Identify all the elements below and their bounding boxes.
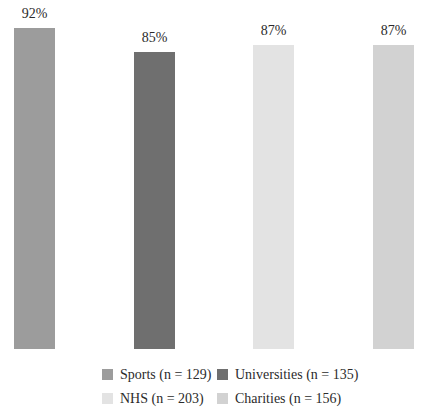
bar-group-charities: 87% [373, 23, 414, 349]
legend-item-sports: Sports (n = 129) [102, 367, 217, 382]
legend-swatch-icon [217, 369, 228, 380]
bar-value-label-universities: 85% [142, 30, 168, 46]
bar-charities [373, 45, 414, 349]
legend-swatch-icon [217, 393, 228, 404]
legend: Sports (n = 129)Universities (n = 135)NH… [102, 367, 358, 406]
bar-sports [14, 28, 55, 349]
bar-universities [134, 52, 175, 349]
legend-swatch-icon [102, 369, 113, 380]
bar-value-label-charities: 87% [381, 23, 407, 39]
legend-label-nhs: NHS (n = 203) [120, 391, 204, 406]
bar-group-nhs: 87% [253, 23, 294, 349]
legend-swatch-icon [102, 393, 113, 404]
legend-label-sports: Sports (n = 129) [120, 367, 212, 382]
bar-nhs [253, 45, 294, 349]
bar-chart-figure: 92%85%87%87% Sports (n = 129)Universitie… [0, 0, 424, 420]
bar-value-label-nhs: 87% [261, 23, 287, 39]
legend-item-charities: Charities (n = 156) [217, 391, 358, 406]
plot-area: 92%85%87%87% [0, 0, 424, 349]
legend-label-charities: Charities (n = 156) [235, 391, 341, 406]
legend-item-nhs: NHS (n = 203) [102, 391, 217, 406]
bar-group-universities: 85% [134, 30, 175, 349]
legend-label-universities: Universities (n = 135) [235, 367, 358, 382]
legend-item-universities: Universities (n = 135) [217, 367, 358, 382]
bar-group-sports: 92% [14, 6, 55, 349]
bar-value-label-sports: 92% [22, 6, 48, 22]
